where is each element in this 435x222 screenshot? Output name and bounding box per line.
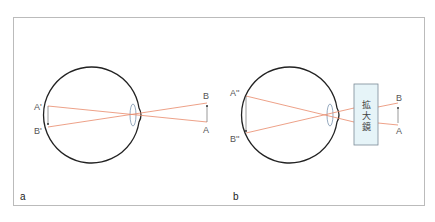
object-a-arrowhead (206, 105, 208, 107)
image-b-arrowhead (245, 130, 247, 132)
image-a-arrowhead (47, 123, 49, 125)
label-a-prime: A' (34, 102, 42, 112)
magnifier-char-3: 鏡 (362, 121, 371, 132)
panel-label-b: b (233, 191, 239, 202)
diagram-canvas: A' B' B A a 拡 大 鏡 A'' B'' B A b (0, 0, 435, 222)
label-b-object: B (203, 91, 209, 101)
label-a-object: A (396, 126, 402, 136)
label-b-prime: B' (34, 126, 42, 136)
panel-label-a: a (20, 191, 26, 202)
magnifier-char-2: 大 (362, 110, 371, 121)
magnifier-char-1: 拡 (362, 99, 371, 110)
label-a-double-prime: A'' (230, 88, 240, 98)
label-b-object: B (396, 93, 402, 103)
label-b-double-prime: B'' (230, 134, 240, 144)
label-a-object: A (203, 125, 209, 135)
object-b-arrowhead (397, 107, 399, 109)
